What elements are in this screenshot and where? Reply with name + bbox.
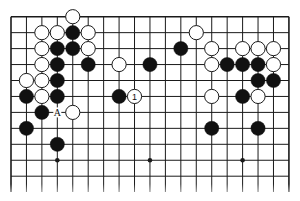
black-stone [19, 89, 33, 103]
white-stone [35, 26, 49, 40]
black-stone [174, 42, 188, 56]
star-point [148, 158, 153, 163]
white-stone [19, 73, 33, 87]
black-stone [66, 42, 80, 56]
white-stone [66, 10, 80, 24]
go-board-svg: 1 A [0, 0, 300, 201]
black-stone [50, 73, 64, 87]
black-stone [205, 121, 219, 135]
star-point [240, 158, 245, 163]
white-stone [266, 42, 280, 56]
black-stone [266, 73, 280, 87]
bottom-fade [0, 184, 300, 201]
white-stone [251, 89, 265, 103]
white-stone [189, 26, 203, 40]
black-stone [50, 89, 64, 103]
black-stone [236, 57, 250, 71]
black-stone [112, 89, 126, 103]
point-label-a: A [54, 107, 62, 118]
white-stone [251, 42, 265, 56]
black-stone [251, 121, 265, 135]
white-stone [205, 42, 219, 56]
black-stone [220, 57, 234, 71]
black-stone [143, 57, 157, 71]
black-stone [66, 26, 80, 40]
white-stone [205, 89, 219, 103]
white-stone [35, 73, 49, 87]
white-stone [205, 57, 219, 71]
white-stone [81, 42, 95, 56]
white-stone [112, 57, 126, 71]
black-stone [50, 42, 64, 56]
star-point [55, 158, 60, 163]
black-stone [35, 105, 49, 119]
go-board-diagram: 1 A [0, 0, 300, 201]
white-stone [35, 89, 49, 103]
white-stone [236, 42, 250, 56]
move-number-label: 1 [132, 92, 137, 102]
black-stone [236, 89, 250, 103]
point-labels: A [53, 107, 61, 118]
white-stone [81, 26, 95, 40]
white-stone [50, 26, 64, 40]
white-stone [266, 57, 280, 71]
white-stone [35, 57, 49, 71]
black-stone [19, 121, 33, 135]
white-stone [66, 105, 80, 119]
white-stone [35, 42, 49, 56]
black-stone [251, 73, 265, 87]
black-stone [50, 137, 64, 151]
black-stone [50, 57, 64, 71]
black-stone [251, 57, 265, 71]
white-stone: 1 [127, 89, 141, 103]
black-stone [81, 57, 95, 71]
